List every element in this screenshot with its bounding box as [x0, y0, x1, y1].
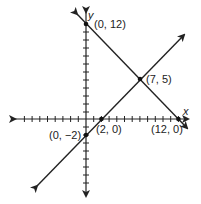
coordinate-graph: y x (0, 12) (7, 5) (2, 0) (12, 0) (0, −2…	[0, 0, 201, 204]
point-label-2-0: (2, 0)	[96, 123, 122, 135]
point-0-neg2	[84, 133, 89, 138]
point-label-12-0: (12, 0)	[151, 123, 183, 135]
point-0-12	[84, 22, 89, 27]
point-7-5	[138, 77, 143, 82]
point-label-0-neg2: (0, −2)	[49, 129, 81, 141]
point-12-0	[176, 117, 181, 122]
point-2-0	[99, 117, 104, 122]
decreasing-line	[77, 14, 187, 128]
point-label-0-12: (0, 12)	[94, 18, 126, 30]
increasing-line	[37, 35, 184, 186]
point-label-7-5: (7, 5)	[146, 73, 172, 85]
x-axis-label: x	[182, 105, 189, 117]
